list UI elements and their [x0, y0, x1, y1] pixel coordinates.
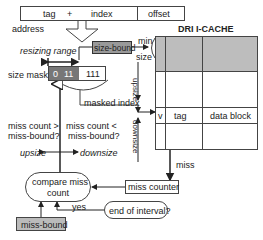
- miss-label: miss: [176, 160, 195, 170]
- cond-gt-line1: miss count >: [8, 121, 59, 131]
- address-label: address: [12, 24, 44, 34]
- cond-lt-line2: miss-bound?: [68, 131, 120, 141]
- size-label: size: [136, 52, 152, 62]
- mask-bit-11: 11: [64, 69, 73, 79]
- address-tag: tag: [43, 9, 56, 19]
- action-upsize: upsize: [20, 148, 46, 158]
- resizing-range-label: resizing range: [20, 46, 77, 56]
- dri-icache: v tag data block: [155, 36, 258, 150]
- size-mask: 0 11 111: [48, 66, 106, 81]
- cond-gt-line2: miss-bound?: [8, 131, 60, 141]
- cache-upsize-label: upsize: [130, 78, 140, 101]
- miss-counter-box: miss counter: [125, 180, 179, 194]
- size-bound-box: size-bound: [92, 41, 132, 54]
- cache-downsize-label: downsize: [130, 120, 140, 153]
- cond-lt-line1: miss count <: [66, 121, 117, 131]
- address-offset: offset: [148, 9, 170, 19]
- cache-col-data-block: data block: [210, 111, 251, 121]
- cache-title: DRI I-CACHE: [178, 24, 234, 34]
- address-bar: tag + index offset: [20, 6, 185, 21]
- address-down-arrow-icon: [66, 20, 98, 42]
- mask-bit-111: 111: [86, 69, 100, 79]
- min-label: min: [138, 36, 153, 46]
- compare-miss-count: compare miss count: [25, 172, 91, 202]
- action-downsize: downsize: [80, 148, 118, 158]
- cache-shaded-min-region: [156, 37, 257, 71]
- cache-col-tag: tag: [174, 111, 187, 121]
- address-plus: +: [67, 9, 72, 19]
- address-index: index: [91, 9, 113, 19]
- mask-bit-0: 0: [53, 69, 58, 79]
- cache-col-v: v: [158, 111, 163, 121]
- end-of-interval: end of interval?: [104, 201, 168, 219]
- size-mask-label: size mask:: [8, 70, 51, 80]
- yes-label: yes: [72, 202, 86, 212]
- miss-bound-box: miss-bound: [16, 217, 66, 231]
- address-divider: [137, 7, 138, 20]
